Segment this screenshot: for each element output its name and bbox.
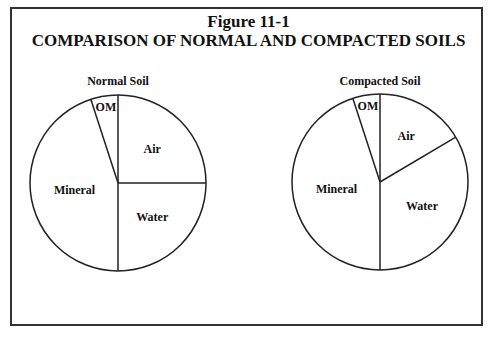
slice-label: Water (406, 199, 439, 213)
normal-soil-pie: AirWaterMineralOM (30, 95, 206, 271)
slice-label: Air (397, 129, 415, 143)
pie-charts: AirWaterMineralOM AirWaterMineralOM (0, 0, 497, 343)
slice-label: Mineral (316, 182, 358, 196)
slice-label: Mineral (54, 183, 96, 197)
compacted-soil-pie: AirWaterMineralOM (292, 94, 468, 270)
slice-label: Air (144, 142, 162, 156)
slice-label: OM (96, 100, 117, 114)
slice-label: OM (358, 99, 379, 113)
slice-label: Water (136, 210, 169, 224)
